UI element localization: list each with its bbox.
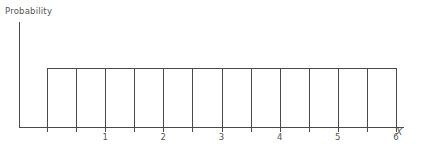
bars-group	[48, 69, 397, 128]
probability-distribution-chart: Probability X 123456	[0, 0, 422, 146]
bar	[222, 69, 251, 128]
bar	[135, 69, 164, 128]
x-tick-label: 3	[219, 133, 224, 142]
x-tick-label: 1	[102, 133, 107, 142]
x-tick-label: 6	[393, 133, 398, 142]
bar	[48, 69, 77, 128]
bar	[251, 69, 280, 128]
bar	[309, 69, 338, 128]
bar	[338, 69, 367, 128]
bar	[280, 69, 309, 128]
x-tick-label: 5	[335, 133, 340, 142]
x-tick-label: 4	[277, 133, 282, 142]
bar	[164, 69, 193, 128]
axes-lines	[20, 22, 405, 128]
plot-area	[0, 0, 422, 146]
x-tick-label: 2	[161, 133, 166, 142]
bar	[106, 69, 135, 128]
bar	[77, 69, 106, 128]
bar	[193, 69, 222, 128]
bar	[367, 69, 396, 128]
